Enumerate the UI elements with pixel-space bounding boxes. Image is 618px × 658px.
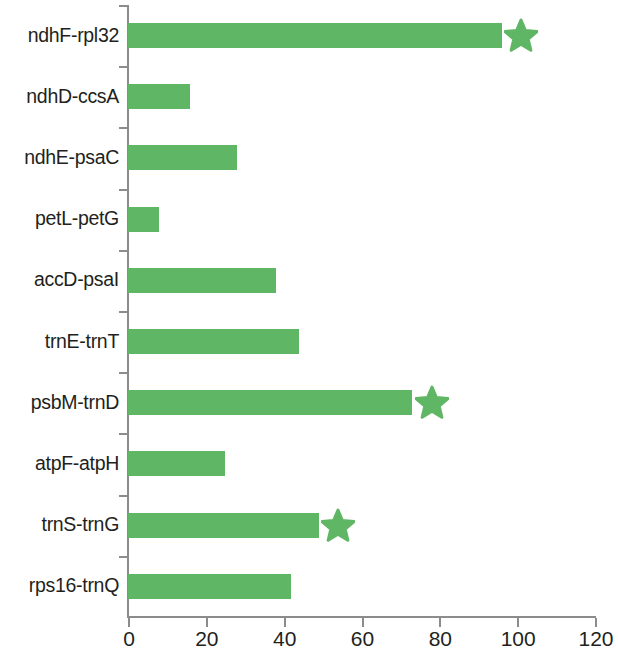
x-axis-tick	[439, 618, 441, 627]
category-label: trnS-trnG	[0, 515, 119, 535]
category-label: ndhE-psaC	[0, 148, 119, 168]
star-marker-icon	[415, 385, 449, 419]
bar-row	[128, 311, 595, 372]
y-axis-tick	[119, 189, 128, 191]
bar-row	[128, 556, 595, 617]
y-axis-tick	[119, 250, 128, 252]
star-marker-icon	[504, 18, 538, 52]
x-axis-tick-label: 80	[405, 628, 475, 649]
x-axis-tick	[517, 618, 519, 627]
y-axis-tick	[119, 127, 128, 129]
x-axis-tick	[362, 618, 364, 627]
y-axis-tick	[119, 66, 128, 68]
bar	[128, 390, 412, 415]
y-axis-tick	[119, 311, 128, 313]
x-axis-tick-label: 120	[561, 628, 618, 649]
plot-area	[128, 5, 595, 617]
category-label: atpF-atpH	[0, 454, 119, 474]
y-axis-tick	[119, 5, 128, 7]
x-axis-tick-label: 60	[328, 628, 398, 649]
bar-row	[128, 66, 595, 127]
category-label: accD-psaI	[0, 270, 119, 290]
bar-row	[128, 5, 595, 66]
bar-row	[128, 127, 595, 188]
bar-row	[128, 372, 595, 433]
bar-row	[128, 433, 595, 494]
bar-row	[128, 189, 595, 250]
x-axis-tick-label: 100	[483, 628, 553, 649]
category-label: psbM-trnD	[0, 393, 119, 413]
x-axis-tick	[128, 618, 130, 627]
x-axis-tick	[284, 618, 286, 627]
bar-row	[128, 250, 595, 311]
x-axis-tick-label: 40	[250, 628, 320, 649]
bar	[128, 23, 502, 48]
category-label: trnE-trnT	[0, 332, 119, 352]
bar	[128, 145, 237, 170]
x-axis-tick-label: 20	[172, 628, 242, 649]
category-label: ndhF-rpl32	[0, 26, 119, 46]
bar-row	[128, 495, 595, 556]
bar	[128, 574, 291, 599]
category-label: ndhD-ccsA	[0, 87, 119, 107]
bar	[128, 513, 319, 538]
bar	[128, 268, 276, 293]
y-axis-tick	[119, 556, 128, 558]
bar	[128, 451, 225, 476]
bar	[128, 329, 299, 354]
bar	[128, 84, 190, 109]
x-axis-tick	[595, 618, 597, 627]
y-axis-tick	[119, 495, 128, 497]
y-axis-tick	[119, 372, 128, 374]
x-axis-tick-label: 0	[94, 628, 164, 649]
x-axis-tick	[206, 618, 208, 627]
bar	[128, 207, 159, 232]
y-axis-tick	[119, 433, 128, 435]
category-label: petL-petG	[0, 209, 119, 229]
category-label: rps16-trnQ	[0, 576, 119, 596]
star-marker-icon	[321, 508, 355, 542]
